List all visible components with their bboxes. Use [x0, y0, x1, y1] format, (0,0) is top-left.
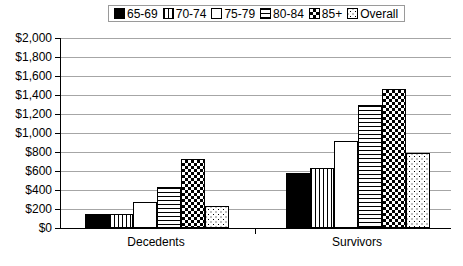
y-axis-tick	[55, 190, 60, 191]
plot-top-border	[61, 38, 451, 39]
y-axis-tick-label: $0	[39, 222, 52, 234]
bar-overall-decedents	[205, 206, 229, 228]
y-axis-tick-label: $1,400	[15, 89, 52, 101]
bar-85--decedents	[181, 159, 205, 228]
bar-75-79-decedents	[133, 202, 157, 228]
bar-chart: 65-69 70-74 75-79 80-84 85+ Overall $2,0…	[0, 0, 463, 266]
legend-item: 75-79	[211, 8, 255, 20]
y-axis-tick	[55, 57, 60, 58]
y-axis-tick-label: $1,600	[15, 70, 52, 82]
bar-overall-survivors	[406, 153, 430, 228]
y-axis-tick-label: $1,800	[15, 51, 52, 63]
y-axis-tick-label: $1,200	[15, 108, 52, 120]
chart-legend: 65-69 70-74 75-79 80-84 85+ Overall	[108, 5, 405, 22]
legend-item: 65-69	[114, 8, 158, 20]
y-axis-tick	[55, 38, 60, 39]
legend-label: 85+	[322, 8, 342, 20]
y-axis-tick-label: $600	[25, 165, 52, 177]
legend-swatch-light-dots-icon	[347, 8, 358, 19]
legend-item: 85+	[309, 8, 342, 20]
gridline	[61, 76, 451, 77]
y-axis-tick-label: $2,000	[15, 32, 52, 44]
bar-80-84-decedents	[157, 187, 181, 228]
y-axis-tick	[55, 228, 60, 229]
y-axis-tick-label: $400	[25, 184, 52, 196]
y-axis-tick	[55, 95, 60, 96]
bar-70-74-survivors	[310, 168, 334, 228]
y-axis-tick-label: $200	[25, 203, 52, 215]
bar-65-69-decedents	[85, 214, 109, 228]
legend-swatch-vertical-lines-icon	[163, 8, 174, 19]
x-axis-category-label: Decedents	[127, 236, 184, 249]
x-axis-category-divider	[255, 229, 256, 234]
gridline	[61, 228, 451, 229]
y-axis-tick	[55, 76, 60, 77]
gridline	[61, 57, 451, 58]
bar-85--survivors	[382, 89, 406, 228]
legend-label: 75-79	[224, 8, 255, 20]
bar-75-79-survivors	[334, 141, 358, 228]
bar-65-69-survivors	[286, 173, 310, 228]
y-axis-tick-label: $800	[25, 146, 52, 158]
legend-swatch-solid-black-icon	[114, 8, 125, 19]
y-axis-tick	[55, 133, 60, 134]
y-axis-tick	[55, 171, 60, 172]
y-axis-tick	[55, 152, 60, 153]
y-axis-tick	[55, 209, 60, 210]
legend-swatch-checkerboard-icon	[309, 8, 320, 19]
legend-label: Overall	[360, 8, 398, 20]
legend-item: 80-84	[260, 8, 304, 20]
plot-area	[60, 38, 451, 229]
y-axis-tick-label: $1,000	[15, 127, 52, 139]
legend-swatch-horizontal-lines-icon	[260, 8, 271, 19]
legend-label: 70-74	[176, 8, 207, 20]
legend-item: 70-74	[163, 8, 207, 20]
legend-swatch-white-icon	[211, 8, 222, 19]
legend-label: 65-69	[127, 8, 158, 20]
y-axis: $2,000$1,800$1,600$1,400$1,200$1,000$800…	[0, 38, 56, 228]
y-axis-tick	[55, 114, 60, 115]
bar-70-74-decedents	[109, 214, 133, 228]
x-axis-category-label: Survivors	[332, 236, 382, 249]
bar-80-84-survivors	[358, 105, 382, 228]
legend-item: Overall	[347, 8, 398, 20]
legend-label: 80-84	[273, 8, 304, 20]
